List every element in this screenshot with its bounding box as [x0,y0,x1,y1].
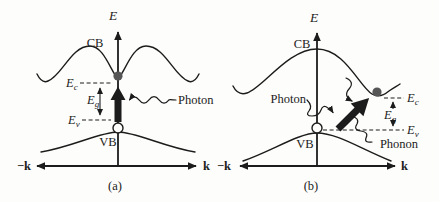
eg-label: Eg [86,93,100,109]
conduction-band-label: CB [294,37,311,51]
photon-label: Photon [178,93,214,107]
k-negative-label: −k [17,159,31,173]
valence-band-label: VB [99,135,116,149]
electron-circle [113,71,122,80]
panel-b-caption: (b) [304,179,319,193]
transition-arrow [111,87,126,123]
photon-wavy-arrow [130,97,177,104]
eg-label: Eg [383,108,397,124]
electron-circle [372,87,381,96]
energy-axis-label: E [309,10,319,25]
ev-label: Ev [67,113,80,129]
panel-a: E CB VB Ec Eg Ev Photon −k k (a) [17,8,214,193]
ec-label: Ec [65,76,78,92]
k-negative-label: −k [217,159,231,173]
photon-wavy-arrow [307,100,333,116]
valence-band-label: VB [296,137,313,151]
panel-b: E CB VB Photon Phonon Ec Eg Ev −k k (b) [217,10,419,193]
energy-axis-label: E [108,8,118,23]
hole-circle [113,123,123,133]
k-positive-label: k [401,159,408,173]
hole-circle [312,123,322,133]
transition-arrow [332,92,376,136]
figure-canvas: E CB VB Ec Eg Ev Photon −k k (a) [0,0,439,202]
phonon-label: Phonon [380,137,419,151]
conduction-band-label: CB [87,36,104,50]
phonon-wavy-lower [351,116,372,142]
phonon-wavy-upper [346,78,352,101]
panel-a-caption: (a) [108,179,122,193]
band-structure-figure: E CB VB Ec Eg Ev Photon −k k (a) [0,0,439,202]
ev-label: Ev [406,123,419,139]
k-positive-label: k [203,159,210,173]
photon-label: Photon [271,92,307,106]
ec-label: Ec [406,91,419,107]
